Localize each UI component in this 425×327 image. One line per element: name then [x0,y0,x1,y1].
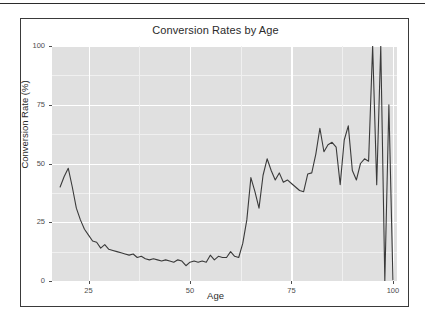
x-tick-mark-25 [89,281,90,284]
x-tick-label-25: 25 [74,286,104,295]
y-tick-mark-0 [49,281,52,282]
chart-figure-frame: Conversion Rates by Age Conversion Rate … [20,18,409,307]
x-tick-label-50: 50 [175,286,205,295]
x-tick-mark-75 [291,281,292,284]
y-tick-label-25: 25 [21,217,45,226]
y-tick-label-75: 75 [21,100,45,109]
y-tick-label-100: 100 [21,41,45,50]
chart-title: Conversion Rates by Age [21,24,410,36]
x-tick-label-100: 100 [378,286,408,295]
x-tick-mark-50 [190,281,191,284]
y-tick-label-0: 0 [21,276,45,285]
plot-panel [52,46,397,281]
x-tick-label-75: 75 [276,286,306,295]
data-series-layer [52,46,397,281]
line-series-conversion-rate [60,46,393,281]
top-divider-rule [0,3,425,4]
y-tick-label-50: 50 [21,159,45,168]
x-tick-mark-100 [393,281,394,284]
